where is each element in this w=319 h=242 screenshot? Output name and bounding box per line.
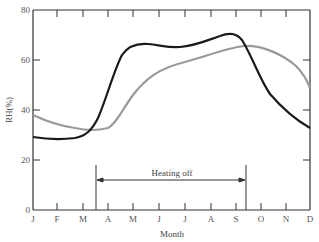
xtick-jun: J [157, 214, 161, 224]
ytick-0: 0 [26, 205, 31, 215]
xtick-sep: S [233, 214, 238, 224]
xtick-nov: N [283, 214, 290, 224]
heating-off-label: Heating off [151, 168, 192, 178]
xtick-jul: J [183, 214, 187, 224]
x-tick-labels: J F M A M J J A S O N D [31, 214, 314, 224]
xtick-dec: D [307, 214, 314, 224]
y-axis-label: RH(%) [4, 97, 14, 123]
xtick-mar: M [79, 214, 87, 224]
series-gray-line [33, 46, 310, 130]
xtick-may: M [129, 214, 137, 224]
xtick-oct: O [258, 214, 265, 224]
xtick-apr: A [105, 214, 112, 224]
ytick-20: 20 [21, 155, 31, 165]
x-axis-label: Month [160, 229, 185, 239]
ytick-40: 40 [21, 105, 31, 115]
xtick-jan: J [31, 214, 35, 224]
y-tick-labels: 0 20 40 60 80 [21, 5, 31, 215]
y-ticks [33, 60, 310, 160]
rh-line-chart: 0 20 40 60 80 J F M A M J J A S O N D Mo… [0, 0, 319, 242]
ytick-80: 80 [21, 5, 31, 15]
xtick-aug: A [208, 214, 215, 224]
xtick-feb: F [54, 214, 59, 224]
ytick-60: 60 [21, 55, 31, 65]
